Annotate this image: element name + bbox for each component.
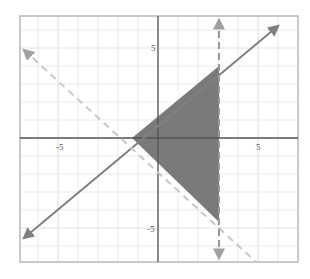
y-tick-neg5: -5	[147, 224, 155, 234]
y-tick-5: 5	[151, 43, 156, 53]
shaded-region	[132, 66, 219, 222]
x-tick-neg5: -5	[56, 142, 64, 152]
solid-boundary-line	[24, 26, 278, 238]
graph-canvas: -5 5 5 -5	[0, 0, 310, 279]
x-tick-5: 5	[256, 142, 261, 152]
